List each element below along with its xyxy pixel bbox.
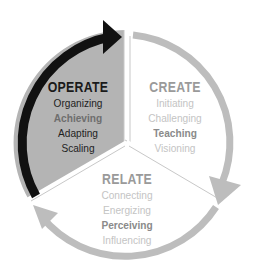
create-label-block: CREATE Initiating Challenging Teaching V…: [130, 80, 220, 156]
operate-item-organizing: Organizing: [38, 96, 117, 111]
operate-item-achieving: Achieving: [38, 111, 117, 126]
operate-item-scaling: Scaling: [38, 141, 117, 156]
operate-item-adapting: Adapting: [38, 126, 117, 141]
relate-item-connecting: Connecting: [87, 188, 166, 203]
relate-label-block: RELATE Connecting Energizing Perceiving …: [82, 172, 172, 248]
relate-item-perceiving: Perceiving: [87, 218, 166, 233]
create-item-challenging: Challenging: [135, 111, 214, 126]
relate-item-influencing: Influencing: [87, 233, 166, 248]
relate-item-energizing: Energizing: [87, 203, 166, 218]
create-heading: CREATE: [135, 80, 214, 95]
create-item-teaching: Teaching: [135, 126, 214, 141]
operate-heading: OPERATE: [38, 80, 117, 95]
operate-label-block: OPERATE Organizing Achieving Adapting Sc…: [33, 80, 123, 156]
create-item-visioning: Visioning: [135, 141, 214, 156]
relate-heading: RELATE: [87, 172, 166, 187]
create-item-initiating: Initiating: [135, 96, 214, 111]
